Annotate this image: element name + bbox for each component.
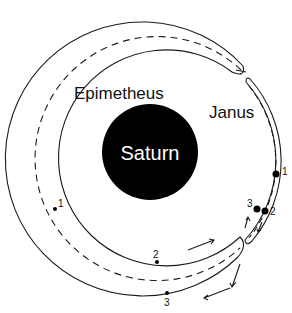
- epimetheus-position-label: 1: [58, 198, 64, 209]
- janus-position-label: 1: [282, 166, 288, 177]
- epimetheus-position-marker: [155, 260, 159, 264]
- epimetheus-position-marker: [53, 207, 57, 211]
- arrow-icon: [188, 239, 214, 250]
- janus-position-marker: [262, 208, 269, 215]
- janus-position-label: 3: [247, 198, 253, 209]
- arrow-icon: [245, 217, 250, 228]
- janus-label: Janus: [209, 103, 254, 122]
- epimetheus-position-label: 2: [153, 249, 159, 260]
- saturn-label: Saturn: [121, 142, 180, 164]
- arrow-icon: [230, 264, 240, 287]
- janus-position-marker: [273, 171, 280, 178]
- tip-tick: [236, 70, 246, 72]
- epimetheus-position-marker: [165, 291, 169, 295]
- horseshoe-orbit-diagram: Saturn Epimetheus Janus 1 2 3 1 2 3: [0, 0, 292, 313]
- epimetheus-position-label: 3: [164, 297, 170, 308]
- janus-position-marker: [254, 206, 261, 213]
- epimetheus-label: Epimetheus: [74, 84, 164, 103]
- janus-position-label: 2: [270, 206, 276, 217]
- arrow-icon: [204, 288, 230, 300]
